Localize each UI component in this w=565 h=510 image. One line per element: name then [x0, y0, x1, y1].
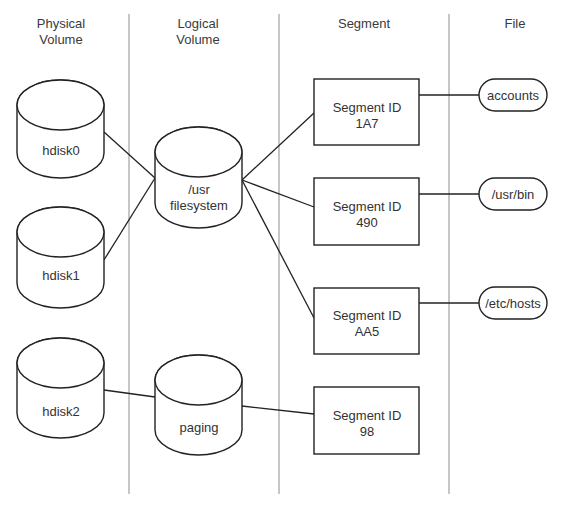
segment-label-line2: 490: [356, 215, 378, 230]
header-physical-volume-line2: Volume: [39, 32, 82, 47]
segment-label-line2: 98: [360, 424, 374, 439]
logical-volume-label-line2: filesystem: [170, 198, 228, 213]
physical-volume-label: hdisk2: [42, 404, 80, 419]
segment-label-line2: AA5: [355, 324, 380, 339]
segment-1a7: Segment ID 1A7: [314, 79, 419, 145]
file-label: accounts: [487, 88, 540, 103]
physical-volume-label: hdisk0: [42, 143, 80, 158]
header-logical-volume-line1: Logical: [177, 16, 218, 31]
storage-mapping-diagram: Physical Volume Logical Volume Segment F…: [0, 0, 565, 510]
column-headers: Physical Volume Logical Volume Segment F…: [37, 16, 526, 47]
segment-label-line1: Segment ID: [333, 308, 402, 323]
physical-volume-hdisk2: hdisk2: [17, 338, 104, 438]
volume-cylinder-top: [155, 355, 242, 405]
segment-490: Segment ID 490: [314, 178, 419, 245]
header-physical-volume-line1: Physical: [37, 16, 86, 31]
disk-cylinder-top: [17, 338, 104, 388]
file-etc-hosts: /etc/hosts: [479, 287, 547, 319]
file-accounts: accounts: [479, 79, 547, 111]
logical-volume-paging: paging: [155, 355, 242, 455]
file-label: /etc/hosts: [485, 296, 541, 311]
connector-usr-aa5: [242, 180, 314, 318]
physical-volume-hdisk1: hdisk1: [17, 207, 104, 308]
logical-volume-usr-filesystem: /usr filesystem: [155, 127, 242, 228]
connector-paging-98: [242, 406, 314, 414]
file-label: /usr/bin: [492, 187, 535, 202]
logical-volume-label-line1: paging: [179, 420, 218, 435]
segment-label-line2: 1A7: [355, 116, 378, 131]
segment-label-line1: Segment ID: [333, 199, 402, 214]
disk-cylinder-top: [17, 80, 104, 130]
volume-cylinder-top: [155, 127, 242, 177]
segment-label-line1: Segment ID: [333, 408, 402, 423]
connector-usr-490: [242, 180, 314, 207]
header-logical-volume-line2: Volume: [176, 32, 219, 47]
file-usr-bin: /usr/bin: [479, 178, 547, 210]
physical-volume-hdisk0: hdisk0: [17, 80, 104, 178]
physical-volume-label: hdisk1: [42, 268, 80, 283]
segment-aa5: Segment ID AA5: [314, 288, 419, 354]
logical-volume-label-line1: /usr: [188, 182, 210, 197]
header-file: File: [505, 16, 526, 31]
connector-usr-1a7: [242, 113, 314, 180]
segment-label-line1: Segment ID: [333, 100, 402, 115]
segment-98: Segment ID 98: [314, 387, 419, 454]
header-segment: Segment: [338, 16, 390, 31]
disk-cylinder-top: [17, 207, 104, 257]
